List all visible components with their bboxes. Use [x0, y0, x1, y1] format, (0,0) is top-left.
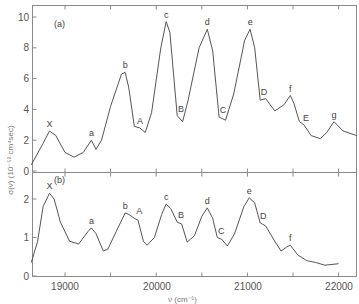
peak-label-D: D — [261, 87, 268, 97]
peak-label-B: B — [178, 104, 184, 114]
y-tick-label: 8 — [23, 42, 29, 53]
x-tick-label-22000: 22000 — [325, 281, 353, 292]
peak-label-f: f — [289, 84, 292, 94]
peak-label-A: A — [137, 116, 143, 126]
peak-label-f: f — [289, 233, 292, 243]
y-tick-label: 2 — [23, 135, 29, 146]
y-tick-label: 10 — [18, 12, 30, 23]
y-tick-label: 0 — [23, 166, 29, 177]
panel-b-label: (b) — [54, 175, 65, 185]
peak-label-a: a — [89, 216, 94, 226]
x-tick-label-21000: 21000 — [234, 281, 262, 292]
y-tick-label: 1 — [23, 232, 29, 243]
peak-label-c: c — [164, 10, 169, 20]
y-axis-label: σ(ν) (10⁻⁵² cm⁴sec) — [6, 125, 15, 195]
peak-label-A: A — [136, 206, 142, 216]
peak-label-D: D — [260, 211, 267, 221]
x-tick-label-19000: 19000 — [51, 281, 79, 292]
peak-label-g: g — [332, 110, 337, 120]
y-tick-label: 6 — [23, 73, 29, 84]
peak-label-B: B — [178, 210, 184, 220]
peak-label-e: e — [247, 186, 252, 196]
y-tick-label: 4 — [23, 104, 29, 115]
peak-label-b: b — [123, 60, 128, 70]
y-tick-label: 2 — [23, 194, 29, 205]
x-axis-label: ν (cm⁻¹) — [168, 295, 197, 304]
y-tick-label: 0 — [23, 271, 29, 282]
panel-b-peak-labels: XabAcBdCeDf — [46, 181, 292, 243]
panel-b-curve — [31, 193, 338, 265]
panel-b-ticks: 012 — [23, 173, 338, 282]
peak-label-a: a — [89, 128, 94, 138]
panel-a-frame — [33, 6, 357, 173]
panel-a: 0246810 XabAcBdCeDfEg (a) — [18, 6, 357, 177]
peak-label-c: c — [164, 192, 169, 202]
panel-a-peak-labels: XabAcBdCeDfEg — [46, 10, 336, 139]
absorption-spectrum-chart: 0246810 XabAcBdCeDfEg (a) 012 XabAcBdCeD… — [0, 0, 359, 304]
x-axis: 19000 20000 21000 22000 ν (cm⁻¹) — [51, 281, 353, 304]
panel-a-curve — [31, 22, 357, 165]
peak-label-C: C — [220, 105, 227, 115]
panel-a-label: (a) — [54, 19, 65, 29]
panel-b: 012 XabAcBdCeDf (b) — [23, 173, 356, 282]
x-tick-label-20000: 20000 — [143, 281, 171, 292]
peak-label-C: C — [218, 226, 225, 236]
peak-label-E: E — [303, 113, 309, 123]
peak-label-d: d — [205, 196, 210, 206]
peak-label-b: b — [123, 201, 128, 211]
peak-label-e: e — [248, 17, 253, 27]
peak-label-X: X — [46, 181, 52, 191]
peak-label-d: d — [205, 17, 210, 27]
peak-label-X: X — [46, 119, 52, 129]
